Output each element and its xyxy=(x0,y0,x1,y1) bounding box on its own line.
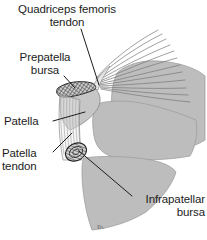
label-quadriceps-femoris-tendon: Quadriceps femoris tendon xyxy=(4,3,130,29)
print-artifact-mark: Ib. xyxy=(97,223,105,231)
svg-text:Ib.: Ib. xyxy=(97,223,105,231)
label-infrapatellar-bursa: Infrapatellar bursa xyxy=(121,193,205,219)
label-prepatella-bursa: Prepatella bursa xyxy=(2,51,88,77)
label-patella: Patella xyxy=(4,115,62,128)
label-patella-tendon: Patella tendon xyxy=(2,147,66,173)
anatomy-figure: Ib. Quadriceps femoris tendon Prepatella… xyxy=(0,0,207,240)
